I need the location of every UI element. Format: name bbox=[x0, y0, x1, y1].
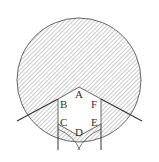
label-C: C bbox=[60, 116, 67, 128]
label-A: A bbox=[75, 88, 83, 100]
geometry-diagram: A B C D E F bbox=[0, 0, 159, 162]
label-B: B bbox=[60, 98, 67, 110]
label-D: D bbox=[75, 126, 83, 138]
label-E: E bbox=[91, 116, 98, 128]
label-F: F bbox=[91, 98, 97, 110]
